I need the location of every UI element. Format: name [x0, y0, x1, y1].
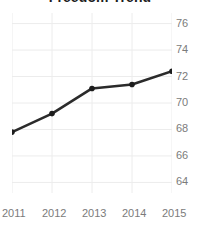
data-point [49, 111, 55, 117]
x-tick-label: 2015 [162, 207, 186, 219]
line-chart: Freedom Trend 64666870727476 20112012201… [0, 0, 200, 228]
plot-area [12, 13, 172, 193]
plot-svg [12, 13, 172, 193]
y-tick-label: 70 [176, 97, 200, 108]
x-tick-label: 2011 [2, 207, 26, 219]
data-point [89, 86, 95, 92]
y-axis: 64666870727476 [176, 0, 200, 228]
x-axis: 20112012201320142015 [0, 207, 200, 225]
y-tick-label: 66 [176, 150, 200, 161]
data-point [129, 82, 135, 88]
y-tick-label: 76 [176, 18, 200, 29]
y-tick-label: 72 [176, 71, 200, 82]
y-tick-label: 74 [176, 44, 200, 55]
x-tick-label: 2012 [42, 207, 66, 219]
x-tick-label: 2013 [82, 207, 106, 219]
chart-title: Freedom Trend [0, 0, 200, 5]
y-tick-label: 64 [176, 176, 200, 187]
x-tick-label: 2014 [122, 207, 146, 219]
y-tick-label: 68 [176, 123, 200, 134]
